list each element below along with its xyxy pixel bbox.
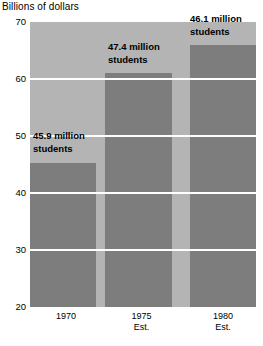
y-tick-30: 30 xyxy=(2,244,26,255)
gridline-30 xyxy=(30,249,256,251)
annotation-1970: 45.9 million students xyxy=(33,129,85,155)
y-tick-20: 20 xyxy=(2,301,26,312)
annotation-1975-line1: 47.4 million xyxy=(108,40,160,53)
annotation-1970-line2: students xyxy=(33,142,85,155)
x-tick-1970-year: 1970 xyxy=(33,311,99,322)
annotation-1980-line1: 46.1 million xyxy=(190,12,242,25)
y-tick-50: 50 xyxy=(2,130,26,141)
annotation-1980: 46.1 million students xyxy=(190,12,242,38)
x-tick-1980-year: 1980 xyxy=(190,311,256,322)
bar-chart: Billions of dollars 70 60 50 40 30 20 45… xyxy=(0,0,263,346)
y-tick-40: 40 xyxy=(2,187,26,198)
y-tick-70: 70 xyxy=(2,16,26,27)
y-tick-60: 60 xyxy=(2,73,26,84)
x-tick-1975-note: Est. xyxy=(108,322,175,333)
bar-1980 xyxy=(190,45,256,307)
annotation-1975-line2: students xyxy=(108,53,160,66)
x-tick-1975-year: 1975 xyxy=(108,311,175,322)
annotation-1975: 47.4 million students xyxy=(108,40,160,66)
gridline-40 xyxy=(30,192,256,194)
y-axis-units-label: Billions of dollars xyxy=(2,1,79,12)
x-tick-1975: 1975 Est. xyxy=(108,311,175,333)
annotation-1970-line1: 45.9 million xyxy=(33,129,85,142)
x-tick-1980-note: Est. xyxy=(190,322,256,333)
bar-1970 xyxy=(30,163,96,307)
x-tick-1970: 1970 xyxy=(33,311,99,322)
x-tick-1980: 1980 Est. xyxy=(190,311,256,333)
bar-1975 xyxy=(105,73,172,307)
gridline-60 xyxy=(30,78,256,80)
annotation-1980-line2: students xyxy=(190,25,242,38)
